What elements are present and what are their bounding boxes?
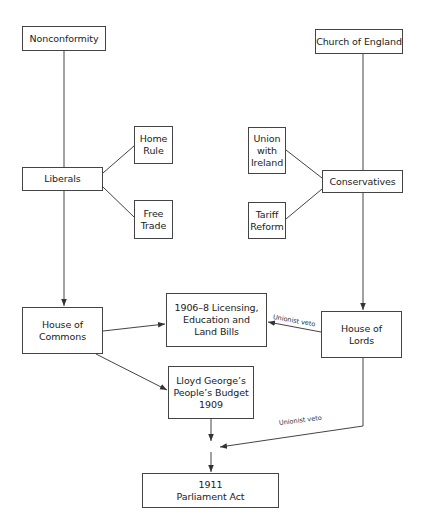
node-home-rule: Home Rule bbox=[134, 126, 173, 164]
node-conservatives: Conservatives bbox=[322, 170, 403, 193]
node-house-of-commons: House of Commons bbox=[22, 307, 103, 354]
node-parliament-act: 1911 Parliament Act bbox=[142, 473, 279, 508]
edge-liberals-free-trade bbox=[103, 187, 134, 217]
edge-liberals-home-rule bbox=[103, 146, 134, 173]
node-liberals: Liberals bbox=[22, 167, 103, 191]
node-church-of-england: Church of England bbox=[315, 29, 403, 54]
edge-commons-budget bbox=[96, 354, 167, 390]
diagram-canvas: Nonconformity Church of England Home Rul… bbox=[0, 0, 425, 520]
node-1906-8-bills: 1906–8 Licensing, Education and Land Bil… bbox=[166, 293, 267, 347]
node-tariff-reform: Tariff Reform bbox=[248, 202, 286, 239]
connector-lines bbox=[0, 0, 425, 520]
node-free-trade: Free Trade bbox=[134, 200, 173, 239]
edge-commons-bills bbox=[103, 324, 165, 331]
node-nonconformity: Nonconformity bbox=[22, 26, 106, 51]
node-peoples-budget: Lloyd George’s People’s Budget 1909 bbox=[168, 366, 254, 419]
edge-conservatives-tariff bbox=[286, 189, 322, 219]
node-house-of-lords: House of Lords bbox=[321, 311, 402, 358]
node-union-with-ireland: Union with Ireland bbox=[248, 127, 286, 174]
edge-conservatives-union bbox=[286, 150, 322, 178]
